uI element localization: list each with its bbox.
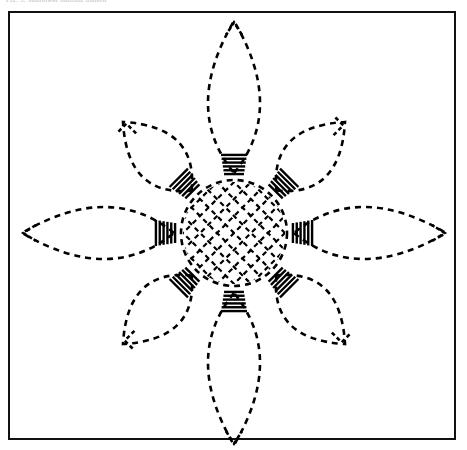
- petal-north: [208, 21, 260, 173]
- comb-4: [156, 220, 175, 246]
- comb-7: [269, 169, 299, 199]
- comb-6: [221, 155, 247, 174]
- sunflower-pattern-artwork: [0, 0, 467, 450]
- petal-northeast-tip-notch: [334, 116, 344, 136]
- petal-southeast-tip-notch: [332, 333, 352, 343]
- comb-0: [293, 220, 312, 246]
- comb-2: [221, 292, 247, 311]
- petal-south: [208, 293, 260, 445]
- petal-northwest-tip-notch: [117, 124, 137, 134]
- pattern-page: Fig. 5. Sunflower quilting pattern: [0, 0, 467, 450]
- comb-5: [170, 169, 200, 199]
- petal-west: [22, 207, 174, 259]
- center-lattice: [114, 113, 354, 353]
- petal-southwest-tip-notch: [125, 331, 135, 351]
- petal-east: [294, 207, 446, 259]
- comb-1: [269, 268, 299, 298]
- comb-3: [170, 268, 200, 298]
